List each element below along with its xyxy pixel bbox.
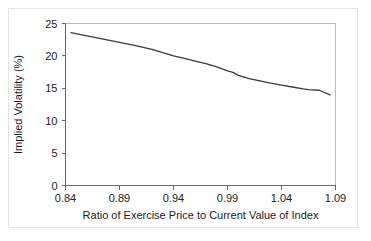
- y-axis-ticks: [62, 24, 66, 186]
- y-tick-label: 0: [51, 180, 57, 192]
- implied-volatility-chart: 0.840.890.940.991.041.09 0510152025 Rati…: [0, 0, 371, 241]
- x-tick-label: 0.99: [217, 192, 238, 204]
- y-tick-label: 25: [45, 18, 57, 30]
- x-tick-label: 1.04: [271, 192, 292, 204]
- x-axis-title: Ratio of Exercise Price to Current Value…: [83, 209, 319, 221]
- x-tick-label: 1.09: [325, 192, 346, 204]
- y-tick-label: 5: [51, 147, 57, 159]
- x-axis-tick-labels: 0.840.890.940.991.041.09: [55, 192, 346, 204]
- y-tick-label: 10: [45, 115, 57, 127]
- figure-root: 0.840.890.940.991.041.09 0510152025 Rati…: [0, 0, 371, 241]
- y-axis-title: Implied Volatility (%): [12, 55, 24, 154]
- x-tick-label: 0.94: [163, 192, 184, 204]
- y-tick-label: 15: [45, 82, 57, 94]
- y-axis-tick-labels: 0510152025: [45, 18, 57, 192]
- y-tick-label: 20: [45, 50, 57, 62]
- x-axis-ticks: [66, 186, 336, 190]
- x-tick-label: 0.89: [109, 192, 130, 204]
- plot-background: [66, 24, 336, 186]
- x-tick-label: 0.84: [55, 192, 76, 204]
